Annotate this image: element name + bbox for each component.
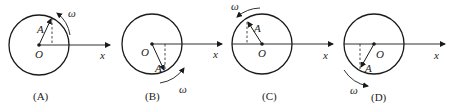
origin-label: O <box>141 46 149 58</box>
amplitude-label: A <box>154 62 162 74</box>
panel-d: ω A O x (D) <box>344 14 445 104</box>
rotation-arc <box>237 8 260 17</box>
origin-dot <box>372 42 376 46</box>
omega-label: ω <box>179 83 187 95</box>
omega-label: ω <box>350 84 358 96</box>
rotation-arc <box>160 68 184 83</box>
axis-label: x <box>212 48 218 60</box>
panel-b: ω A O x (B) <box>122 14 222 103</box>
caption: (C) <box>262 90 277 103</box>
amplitude-label: A <box>36 23 44 35</box>
origin-label: O <box>376 48 384 60</box>
omega-label: ω <box>231 0 239 12</box>
origin-label: O <box>258 47 266 59</box>
panel-a: ω A O x (A) <box>9 7 110 103</box>
caption: (B) <box>145 90 160 103</box>
origin-dot <box>150 42 154 46</box>
panel-c: ω A O x (C) <box>231 0 333 103</box>
amplitude-label: A <box>253 22 261 34</box>
axis-label: x <box>99 49 105 61</box>
caption: (A) <box>33 90 49 103</box>
origin-dot <box>260 42 264 46</box>
axis-label: x <box>322 49 328 61</box>
omega-label: ω <box>68 7 76 19</box>
origin-dot <box>37 43 41 47</box>
phasor-figure: ω A O x (A) ω A O x (B) ω A O x (C) <box>0 0 449 110</box>
axis-label: x <box>433 49 439 61</box>
caption: (D) <box>371 91 387 104</box>
origin-label: O <box>35 48 43 60</box>
amplitude-label: A <box>364 62 372 74</box>
